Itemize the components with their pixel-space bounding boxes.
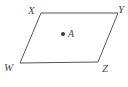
point-label-a: A [68,29,74,39]
parallelogram-drawing [0,0,128,87]
vertex-label-y: Y [118,4,124,15]
vertex-label-x: X [28,5,35,16]
vertex-label-w: W [4,62,13,73]
vertex-label-z: Z [102,63,108,74]
point-a-marker-dot [61,32,65,36]
geometry-figure: X Y Z W A [0,0,128,87]
